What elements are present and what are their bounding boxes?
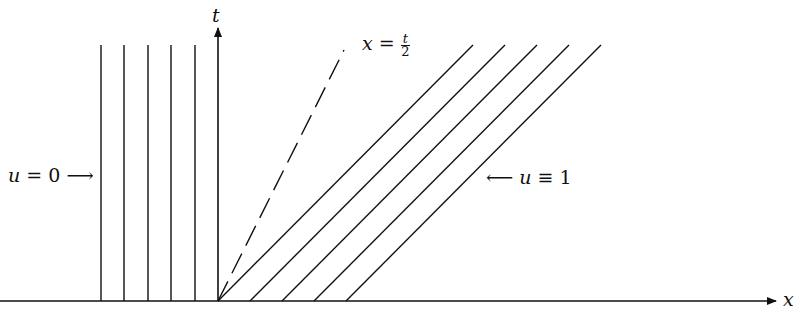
right-region-label: ⟵ u ≡ 1 xyxy=(486,166,572,188)
value: 0 xyxy=(48,164,60,186)
left-region-label: u = 0 ⟶ xyxy=(8,164,94,186)
denominator: 2 xyxy=(401,46,410,58)
value: 1 xyxy=(560,166,572,188)
dashed-shock-line xyxy=(218,50,344,301)
identically-equal-sign: ≡ xyxy=(538,166,554,188)
left-arrow-icon: ⟵ xyxy=(486,166,513,188)
x-axis-label: x xyxy=(783,288,794,310)
shock-line-label: x = t 2 xyxy=(362,32,410,58)
u-var: u xyxy=(8,164,20,186)
u-var: u xyxy=(519,166,531,188)
x-var: x xyxy=(362,32,373,54)
fraction: t 2 xyxy=(401,33,410,58)
t-axis-label: t xyxy=(212,4,220,26)
right-arrow-icon: ⟶ xyxy=(66,164,93,186)
vertical-characteristics xyxy=(101,45,195,301)
equals-sign: = xyxy=(379,32,395,54)
equals-sign: = xyxy=(26,164,42,186)
